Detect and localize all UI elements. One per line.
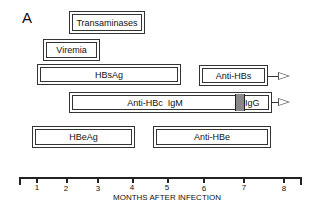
bar-label: HBsAg [95,70,123,80]
axis-tick [203,177,205,183]
tick-label: 2 [64,184,68,193]
tick-label: 7 [242,183,246,192]
bar-viremia: Viremia [43,39,100,61]
bar-label: HBeAg [69,132,98,142]
tick-label: 4 [130,183,134,192]
axis-tick [66,177,68,183]
bar-hbsag: HBsAg [37,64,181,85]
bar-transaminases: Transaminases [69,11,145,34]
tick-label: 3 [96,184,100,193]
bar-switch-label: IgG [245,96,260,109]
time-axis [19,177,301,179]
axis-end-tick [19,177,21,185]
tick-label: 8 [282,184,286,193]
bar-label: Transaminases [76,18,137,28]
bar-anti-hbc: Anti-HBc IgM IgG [69,92,272,113]
tick-label: 1 [35,183,39,192]
bar-label: Viremia [56,45,86,55]
axis-title: MONTHS AFTER INFECTION [113,193,221,202]
tick-label: 5 [165,183,169,192]
bar-anti-hbe: Anti-HBe [153,126,271,148]
bar-label: Anti-HBe [194,132,230,142]
bar-label: Anti-HBs [216,71,252,81]
igm-igg-switch-marker [235,94,245,111]
continuation-arrow-icon [278,98,290,106]
panel-letter: A [22,9,32,26]
axis-tick [97,177,99,183]
continuation-arrow-icon [278,72,290,80]
axis-tick [283,177,285,183]
bar-label: Anti-HBc IgM [73,96,237,109]
axis-end-tick [300,177,302,185]
bar-hbeag: HBeAg [32,126,135,148]
bar-anti-hbs: Anti-HBs [199,65,268,86]
tick-label: 6 [202,184,206,193]
